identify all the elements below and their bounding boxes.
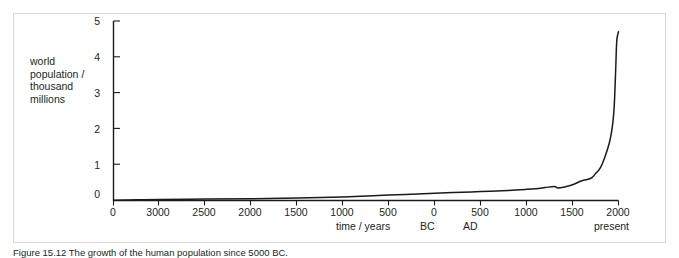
population-curve (114, 32, 619, 200)
figure-caption: Figure 15.12 The growth of the human pop… (13, 247, 288, 258)
x-axis (113, 201, 619, 206)
y-axis (114, 21, 121, 201)
